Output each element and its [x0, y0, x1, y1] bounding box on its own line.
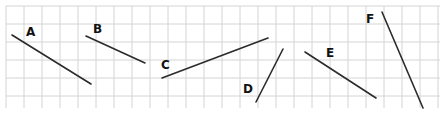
segment-label-f: F [366, 12, 374, 26]
line-segments-diagram: ABCDEF [0, 0, 444, 113]
segment-label-c: C [161, 58, 170, 72]
segment-label-a: A [26, 25, 36, 39]
segment-label-b: B [93, 22, 102, 36]
segment-label-e: E [326, 46, 334, 60]
segment-label-d: D [243, 82, 253, 96]
